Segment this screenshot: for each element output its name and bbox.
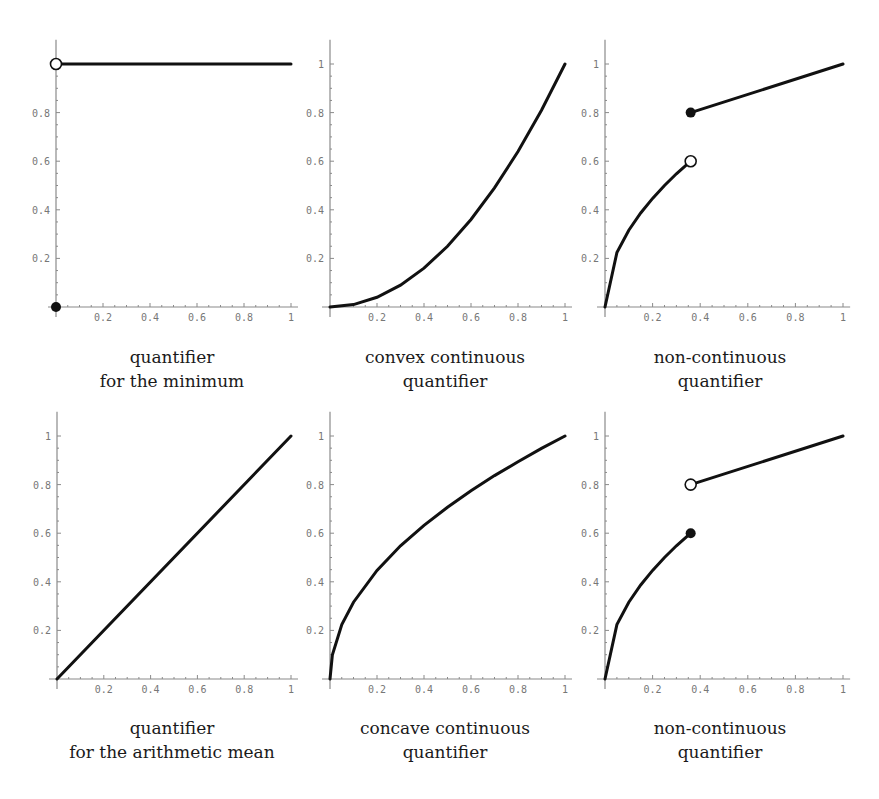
y-tick-label: 0.2	[33, 625, 51, 636]
y-tick-label: 1	[318, 431, 324, 442]
x-tick-label: 0.4	[415, 312, 433, 323]
x-tick-label: 0.4	[691, 312, 709, 323]
x-tick-label: 0.6	[188, 684, 206, 695]
x-tick-label: 0.2	[644, 312, 662, 323]
x-tick-label: 0.8	[509, 312, 527, 323]
caption-convex: convex continuous quantifier	[305, 345, 585, 393]
x-tick-label: 0.4	[415, 684, 433, 695]
x-tick-label: 0.4	[691, 684, 709, 695]
caption-line: quantifier	[305, 740, 585, 764]
y-tick-label: 0.4	[581, 577, 599, 588]
caption-line: concave continuous	[305, 716, 585, 740]
x-tick-label: 0.2	[94, 312, 112, 323]
series-line	[330, 436, 565, 679]
chart-panel-top-left: 0.20.40.60.810.20.40.60.8	[32, 40, 298, 323]
x-tick-label: 1	[288, 684, 294, 695]
x-tick-label: 1	[840, 312, 846, 323]
x-tick-label: 0.8	[786, 312, 804, 323]
filled-endpoint-marker	[686, 528, 696, 538]
x-tick-label: 1	[562, 312, 568, 323]
caption-concave: concave continuous quantifier	[305, 716, 585, 764]
y-tick-label: 0.8	[581, 480, 599, 491]
chart-panel-top-right: 0.20.40.60.810.20.40.60.81	[581, 40, 850, 323]
caption-noncontinuous-bottom: non-continuous quantifier	[580, 716, 860, 764]
y-tick-label: 0.2	[581, 625, 599, 636]
y-tick-label: 0.2	[32, 253, 50, 264]
chart-panel-top-middle: 0.20.40.60.810.20.40.60.81	[306, 40, 572, 323]
y-tick-label: 0.8	[306, 108, 324, 119]
chart-panel-bottom-left: 0.20.40.60.810.20.40.60.81	[33, 412, 298, 695]
y-tick-label: 0.2	[306, 253, 324, 264]
y-tick-label: 0.2	[581, 253, 599, 264]
x-tick-label: 0.2	[644, 684, 662, 695]
chart-panel-bottom-middle: 0.20.40.60.810.20.40.60.81	[306, 412, 572, 695]
series-line	[691, 436, 843, 485]
open-endpoint-marker	[685, 156, 696, 167]
y-tick-label: 0.4	[581, 205, 599, 216]
x-tick-label: 0.8	[509, 684, 527, 695]
x-tick-label: 0.8	[235, 312, 253, 323]
x-tick-label: 0.2	[368, 312, 386, 323]
caption-line: quantifier	[32, 716, 312, 740]
x-tick-label: 0.4	[141, 312, 159, 323]
y-tick-label: 0.4	[33, 577, 51, 588]
x-tick-label: 1	[288, 312, 294, 323]
caption-line: quantifier	[580, 740, 860, 764]
y-tick-label: 0.6	[581, 528, 599, 539]
caption-arithmetic-mean: quantifier for the arithmetic mean	[32, 716, 312, 764]
y-tick-label: 0.2	[306, 625, 324, 636]
y-tick-label: 0.4	[306, 205, 324, 216]
y-tick-label: 0.6	[32, 156, 50, 167]
y-tick-label: 0.4	[32, 205, 50, 216]
caption-line: quantifier	[580, 369, 860, 393]
series-line	[57, 436, 291, 679]
caption-line: convex continuous	[305, 345, 585, 369]
y-tick-label: 0.8	[306, 480, 324, 491]
y-tick-label: 1	[593, 59, 599, 70]
y-tick-label: 0.6	[306, 156, 324, 167]
x-tick-label: 1	[840, 684, 846, 695]
x-tick-label: 0.6	[462, 312, 480, 323]
y-tick-label: 1	[593, 431, 599, 442]
series-line	[691, 64, 843, 113]
caption-line: quantifier	[32, 345, 312, 369]
x-tick-label: 0.6	[739, 684, 757, 695]
series-line	[605, 161, 691, 307]
y-tick-label: 1	[318, 59, 324, 70]
series-line	[605, 533, 691, 679]
caption-line: non-continuous	[580, 716, 860, 740]
x-tick-label: 1	[562, 684, 568, 695]
filled-endpoint-marker	[686, 108, 696, 118]
caption-minimum: quantifier for the minimum	[32, 345, 312, 393]
x-tick-label: 0.2	[95, 684, 113, 695]
x-tick-label: 0.4	[142, 684, 160, 695]
caption-line: quantifier	[305, 369, 585, 393]
figure-grid: 0.20.40.60.810.20.40.60.80.20.40.60.810.…	[0, 0, 879, 799]
open-endpoint-marker	[685, 479, 696, 490]
y-tick-label: 0.6	[33, 528, 51, 539]
y-tick-label: 0.8	[581, 108, 599, 119]
x-tick-label: 0.6	[462, 684, 480, 695]
caption-line: non-continuous	[580, 345, 860, 369]
y-tick-label: 0.6	[306, 528, 324, 539]
x-tick-label: 0.8	[235, 684, 253, 695]
x-tick-label: 0.6	[739, 312, 757, 323]
series-line	[330, 64, 565, 307]
caption-line: for the arithmetic mean	[32, 740, 312, 764]
x-tick-label: 0.2	[368, 684, 386, 695]
y-tick-label: 0.4	[306, 577, 324, 588]
y-tick-label: 1	[45, 431, 51, 442]
caption-line: for the minimum	[32, 369, 312, 393]
y-tick-label: 0.8	[32, 108, 50, 119]
y-tick-label: 0.8	[33, 480, 51, 491]
chart-panel-bottom-right: 0.20.40.60.810.20.40.60.81	[581, 412, 850, 695]
open-endpoint-marker	[51, 59, 62, 70]
x-tick-label: 0.8	[786, 684, 804, 695]
y-tick-label: 0.6	[581, 156, 599, 167]
filled-endpoint-marker	[51, 302, 61, 312]
x-tick-label: 0.6	[188, 312, 206, 323]
caption-noncontinuous-top: non-continuous quantifier	[580, 345, 860, 393]
